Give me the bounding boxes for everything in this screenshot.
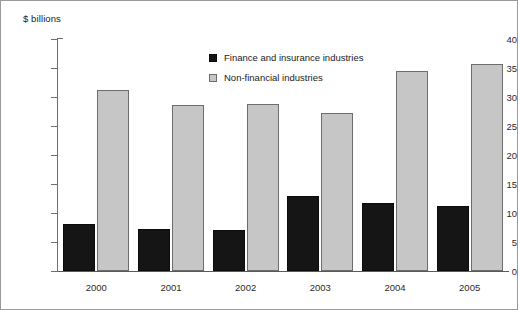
y-axis-tick — [51, 39, 58, 40]
bar — [172, 105, 204, 271]
bar — [321, 113, 353, 271]
bar — [213, 230, 245, 271]
legend-item-label: Finance and insurance industries — [224, 53, 363, 63]
y-axis-tick — [51, 184, 58, 185]
y-axis-tick — [51, 271, 58, 272]
bar — [362, 203, 394, 271]
bar — [437, 206, 469, 271]
y-axis-tick — [51, 68, 58, 69]
y-axis-tick — [51, 155, 58, 156]
y-axis-tick — [51, 126, 58, 127]
light-square-icon — [209, 74, 217, 82]
y-axis-tick — [51, 97, 58, 98]
bar — [396, 71, 428, 271]
bar — [471, 64, 503, 271]
chart-legend: Finance and insurance industries Non-fin… — [209, 50, 363, 90]
y-axis-tick — [51, 242, 58, 243]
y-axis-tick-label: 40 — [473, 34, 517, 45]
y-axis-title: $ billions — [23, 13, 61, 24]
x-axis-tick-label: 2000 — [86, 282, 107, 293]
y-axis-tick — [51, 213, 58, 214]
x-axis-tick-label: 2005 — [459, 282, 480, 293]
x-axis-line — [57, 271, 509, 272]
x-axis-tick-label: 2003 — [310, 282, 331, 293]
x-axis-tick-label: 2001 — [160, 282, 181, 293]
bar — [247, 104, 279, 271]
legend-item-label: Non-financial industries — [224, 73, 323, 83]
dark-square-icon — [209, 54, 217, 62]
x-axis-tick-label: 2002 — [235, 282, 256, 293]
x-axis-tick-label: 2004 — [384, 282, 405, 293]
chart-figure: $ billions 0510152025303540 200020012002… — [0, 0, 518, 310]
bar — [63, 224, 95, 271]
bar — [287, 196, 319, 271]
legend-item: Non-financial industries — [209, 70, 363, 85]
bar — [138, 229, 170, 271]
legend-item: Finance and insurance industries — [209, 50, 363, 65]
bar — [97, 90, 129, 271]
